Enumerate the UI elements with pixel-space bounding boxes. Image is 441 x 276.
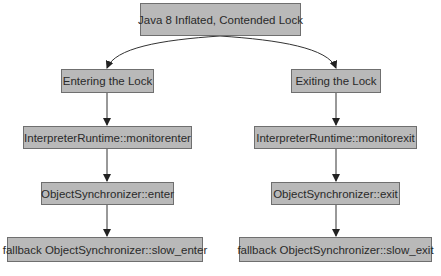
node-label: fallback ObjectSynchronizer::slow_exit (237, 244, 433, 256)
node-label: ObjectSynchronizer::enter (41, 188, 174, 200)
node-slow-enter: fallback ObjectSynchronizer::slow_enter (7, 237, 203, 262)
edge-root-to-exiting (220, 36, 336, 68)
node-entering-the-lock: Entering the Lock (61, 69, 154, 93)
node-label: InterpreterRuntime::monitorexit (256, 132, 415, 144)
node-objectsynchronizer-enter: ObjectSynchronizer::enter (41, 182, 174, 205)
node-monitorenter: InterpreterRuntime::monitorenter (23, 126, 192, 149)
node-label: ObjectSynchronizer::exit (273, 188, 398, 200)
node-root-label: Java 8 Inflated, Contended Lock (138, 14, 303, 26)
node-label: fallback ObjectSynchronizer::slow_enter (3, 244, 208, 256)
edge-root-to-entering (107, 36, 220, 68)
node-slow-exit: fallback ObjectSynchronizer::slow_exit (239, 237, 432, 262)
node-root: Java 8 Inflated, Contended Lock (140, 3, 301, 36)
node-label: Entering the Lock (63, 75, 153, 87)
node-label: InterpreterRuntime::monitorenter (24, 132, 191, 144)
node-monitorexit: InterpreterRuntime::monitorexit (254, 126, 417, 149)
node-label: Exiting the Lock (295, 75, 376, 87)
node-exiting-the-lock: Exiting the Lock (291, 69, 381, 93)
node-objectsynchronizer-exit: ObjectSynchronizer::exit (271, 182, 400, 205)
